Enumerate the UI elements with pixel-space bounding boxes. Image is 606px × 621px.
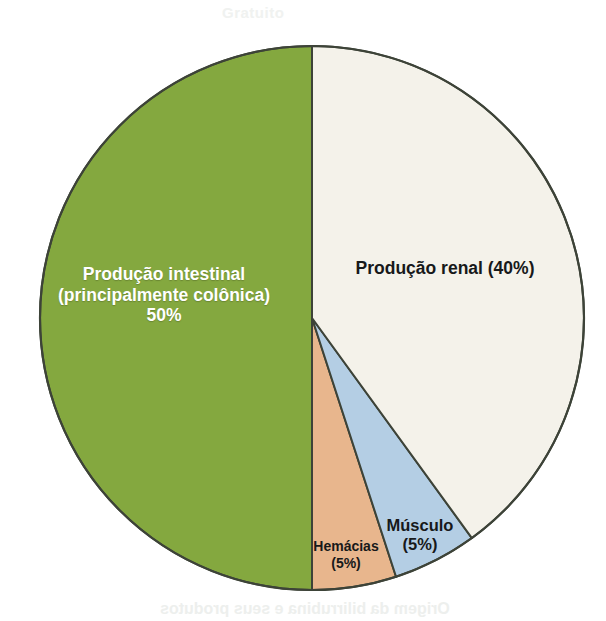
pie-chart: Produção intestinal (principalmente colô… — [0, 0, 606, 621]
pie-chart-figure: Gratuito Produção intestinal (principalm… — [0, 0, 606, 621]
pie-slice-group — [40, 46, 584, 590]
pie-chart-svg — [0, 0, 606, 621]
pie-slice-producao-intestinal[interactable] — [40, 46, 312, 590]
